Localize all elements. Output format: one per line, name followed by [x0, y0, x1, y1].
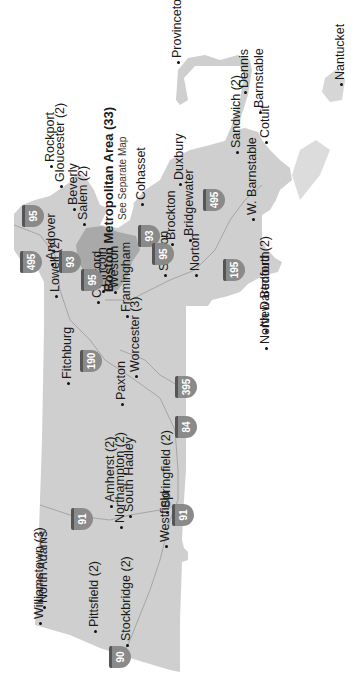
- highway-shield-icon: 90: [109, 646, 131, 668]
- city-marker: [141, 203, 144, 206]
- city-marker: [55, 295, 58, 298]
- city-label: W. Barnstable: [246, 137, 259, 215]
- city-marker: [129, 515, 132, 518]
- city-marker: [39, 622, 42, 625]
- highway-number: 90: [112, 646, 131, 668]
- highway-shield-icon: 91: [71, 508, 93, 530]
- city-label: Westfield: [159, 491, 172, 542]
- city-label: Barnstable: [253, 48, 266, 108]
- highway-number: 84: [178, 416, 197, 438]
- highway-number: 495: [206, 189, 225, 211]
- city-label: Pittsfield (2): [88, 561, 101, 627]
- boston-metro-sublabel: See Separate Map: [116, 137, 129, 220]
- city-marker: [165, 545, 168, 548]
- highway-number: 91: [74, 508, 93, 530]
- city-label: Norton: [189, 233, 202, 271]
- city-marker: [120, 526, 123, 529]
- city-marker: [177, 61, 180, 64]
- city-marker: [135, 375, 138, 378]
- city-marker: [94, 630, 97, 633]
- highway-shield-icon: 190: [80, 350, 102, 372]
- city-label: Fitchburg: [61, 327, 74, 379]
- city-marker: [340, 83, 343, 86]
- city-marker: [60, 185, 63, 188]
- highway-number: 195: [226, 259, 245, 281]
- highway-shield-icon: 495: [203, 189, 225, 211]
- city-label: Sandwich (2): [230, 75, 243, 148]
- city-label: North Dartmouth: [259, 252, 272, 344]
- city-marker: [244, 91, 247, 94]
- city-label: Salem (2): [77, 166, 90, 220]
- city-marker: [83, 223, 86, 226]
- highway-shield-icon: 84: [175, 416, 197, 438]
- city-marker: [195, 274, 198, 277]
- highway-number: 93: [62, 251, 81, 273]
- highway-shield-icon: 195: [223, 259, 245, 281]
- highway-shield-icon: 395: [175, 376, 197, 398]
- city-label: Bridgewater: [183, 169, 196, 236]
- highway-shield-icon: 93: [59, 251, 81, 273]
- highway-shield-icon: 95: [152, 243, 174, 265]
- city-marker: [236, 151, 239, 154]
- highway-number: 95: [84, 269, 103, 291]
- boston-metro-label[interactable]: Boston Metropolitan Area (33): [102, 107, 115, 292]
- city-marker: [265, 347, 268, 350]
- city-label: Worcester (3): [129, 297, 142, 372]
- city-label: Stockbridge (2): [120, 556, 133, 641]
- highway-number: 95: [155, 243, 174, 265]
- city-marker: [164, 274, 167, 277]
- city-label: Northampton (2): [114, 432, 127, 523]
- city-marker: [252, 218, 255, 221]
- city-marker: [265, 141, 268, 144]
- city-label: Provincetown: [171, 0, 184, 58]
- city-label: Cotuit: [259, 105, 272, 138]
- city-label: North Adams: [37, 531, 50, 603]
- highway-number: 95: [25, 205, 44, 227]
- highway-shield-icon: 95: [81, 269, 103, 291]
- highway-shield-icon: 495: [20, 251, 42, 273]
- highway-number: 190: [83, 350, 102, 372]
- city-label: Cohasset: [135, 147, 148, 200]
- highway-number: 91: [175, 504, 194, 526]
- highway-number: 495: [23, 251, 42, 273]
- city-marker: [43, 606, 46, 609]
- highway-shield-icon: 91: [172, 504, 194, 526]
- city-marker: [97, 301, 100, 304]
- city-label: Paxton: [115, 361, 128, 400]
- city-marker: [67, 382, 70, 385]
- city-marker: [121, 403, 124, 406]
- highway-number: 395: [178, 376, 197, 398]
- city-label: Nantucket: [334, 24, 347, 80]
- highway-shield-icon: 95: [22, 205, 44, 227]
- cape-islands-shape: [292, 140, 330, 200]
